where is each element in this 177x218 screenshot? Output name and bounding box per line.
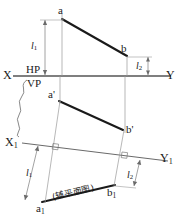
label-point-a: a [58,5,63,16]
label-point-a-prime: a' [48,89,55,100]
label-axis-y: Y [166,69,175,81]
label-point-b1-subscript: 1 [113,191,117,200]
label-point-b1: b1 [107,187,116,199]
arrow-l1-top-lower [43,70,47,75]
label-point-b: b [121,43,127,54]
label-axis-x1: X1 [5,136,18,150]
arrow-l1-aux-upper [35,146,40,151]
label-point-b-prime: b' [126,124,133,135]
label-dim-l2-aux-subscript: 2 [130,173,133,180]
segment-a-prime-b-prime [59,101,123,130]
arrow-l2-top-upper [146,57,150,62]
arrow-l1-aux-lower [24,195,29,200]
label-dim-l1-aux: l1 [26,168,32,179]
label-plane-hp: HP [26,64,40,75]
label-point-a1-subscript: 1 [41,207,45,216]
label-dim-l1-aux-subscript: 1 [29,171,32,178]
label-axis-x1-subscript: 1 [14,141,18,150]
label-dim-l2-top: l2 [136,61,142,72]
label-axis-y1: Y1 [160,152,173,166]
segment-ab [62,19,127,56]
label-plane-vp: VP [27,78,41,89]
arrow-l2-aux-lower [133,181,137,186]
label-dim-l2-top-subscript: 2 [139,64,142,71]
label-axis-y1-base: Y [160,151,169,165]
arrow-l2-top-lower [146,70,150,75]
hp-vp-brace [17,80,27,137]
label-axis-y1-subscript: 1 [169,157,173,166]
arrow-l2-aux-upper [137,160,141,165]
label-dim-l2-aux: l2 [127,170,133,181]
figure-canvas: a b a' b' a1 b1 X Y X1 Y1 HP VP l1 l2 l1… [0,0,177,218]
axis-x1y1-line [22,143,168,161]
arrow-l1-top-upper [43,20,47,25]
label-axis-x1-base: X [5,135,14,149]
label-dim-l1-top-subscript: 1 [34,44,37,51]
label-dim-l1-top: l1 [31,41,37,52]
label-point-a1: a1 [36,203,45,215]
label-axis-x: X [3,69,12,81]
aux-b1-extension [115,186,136,188]
